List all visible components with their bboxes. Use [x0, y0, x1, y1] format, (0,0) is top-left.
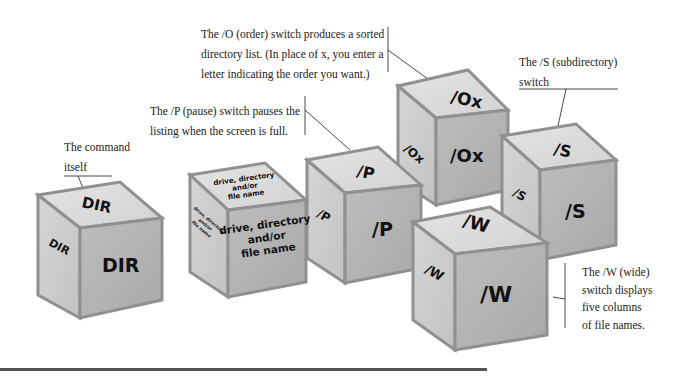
- cube-dir: DIR DIR DIR: [38, 182, 162, 318]
- cube-dir-front-label: DIR: [102, 254, 140, 276]
- cube-path: drive, directory and/or file name drive,…: [185, 163, 315, 297]
- cube-subdir-front-label: /S: [565, 200, 586, 222]
- dir-switches-diagram: /Ox /Ox /Ox /S /S /S /P /P /P drive, dir…: [0, 0, 677, 389]
- bottom-rule: [0, 368, 487, 371]
- cube-order-front-label: /Ox: [450, 145, 484, 166]
- cube-wide-front-label: /W: [480, 282, 512, 307]
- cube-pause-front-label: /P: [372, 218, 393, 240]
